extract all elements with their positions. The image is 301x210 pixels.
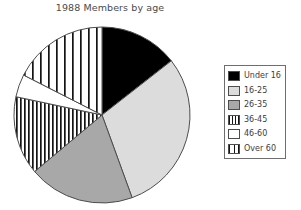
legend-swatch-over-60 bbox=[228, 144, 240, 154]
legend-label-26-35: 26-35 bbox=[244, 100, 267, 110]
legend-swatch-under-16 bbox=[228, 71, 240, 81]
legend-label-under-16: Under 16 bbox=[244, 71, 281, 81]
legend-item-36-45[interactable]: 36-45 bbox=[228, 113, 282, 128]
pie-chart-figure: 1988 Members by age Under 16 bbox=[0, 0, 301, 210]
legend-label-16-25: 16-25 bbox=[244, 86, 267, 96]
legend-swatch-16-25 bbox=[228, 86, 240, 96]
legend-item-16-25[interactable]: 16-25 bbox=[228, 84, 282, 99]
legend-label-36-45: 36-45 bbox=[244, 115, 267, 125]
pie-slice-group bbox=[14, 27, 190, 203]
legend-swatch-46-60 bbox=[228, 129, 240, 139]
legend-item-under-16[interactable]: Under 16 bbox=[228, 69, 282, 84]
legend-item-46-60[interactable]: 46-60 bbox=[228, 127, 282, 142]
chart-legend: Under 16 16-25 26-35 36-45 46-60 Over 60 bbox=[224, 65, 286, 159]
legend-item-26-35[interactable]: 26-35 bbox=[228, 98, 282, 113]
legend-swatch-26-35 bbox=[228, 100, 240, 110]
legend-item-over-60[interactable]: Over 60 bbox=[228, 142, 282, 157]
legend-swatch-36-45 bbox=[228, 115, 240, 125]
legend-label-over-60: Over 60 bbox=[244, 144, 276, 154]
legend-label-46-60: 46-60 bbox=[244, 129, 267, 139]
